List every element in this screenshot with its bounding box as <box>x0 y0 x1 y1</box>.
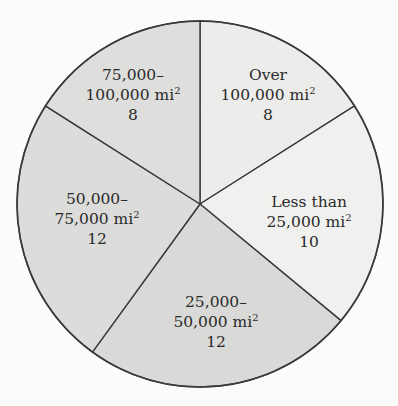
pie-chart: Over100,000 mi28Less than25,000 mi21025,… <box>0 0 398 406</box>
